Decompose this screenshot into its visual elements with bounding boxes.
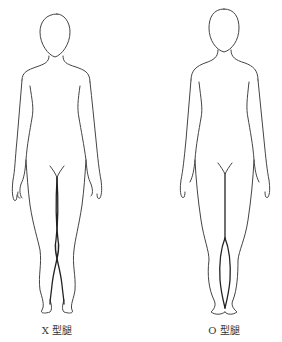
x-legs-label: X 型腿 — [42, 322, 72, 337]
o-legs-body-outline-icon — [141, 0, 282, 342]
x-legs-figure — [0, 0, 141, 342]
o-legs-label: O 型腿 — [208, 322, 239, 337]
o-legs-figure — [141, 0, 282, 342]
x-legs-body-outline-icon — [0, 0, 141, 342]
